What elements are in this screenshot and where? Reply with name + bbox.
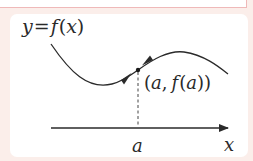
point-label: (a,f(a)) [144, 72, 211, 93]
left-approach-arrow-icon [121, 73, 132, 85]
point-a-fa [136, 68, 140, 72]
function-limit-diagram: y=f(x) (a,f(a)) a x [0, 0, 253, 161]
curve-label: y=f(x) [21, 15, 84, 37]
tick-label-a: a [132, 135, 143, 156]
axis-label-x: x [224, 134, 234, 155]
